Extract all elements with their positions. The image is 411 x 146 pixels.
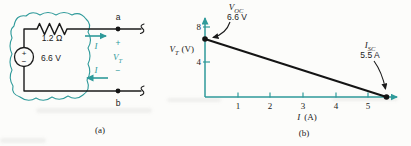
panel-a-caption: (a) (95, 125, 105, 135)
y-axis-label: VT(V) (169, 44, 194, 56)
vt-plus-sign: + (116, 38, 121, 48)
terminal-b-dot (116, 89, 121, 94)
panel-b-caption: (b) (299, 128, 310, 138)
figure-thevenin-equivalent: 1.2 Ω + − 6.6 V a b I I + VT − (a) (0, 0, 411, 146)
terminal-b-label: b (116, 98, 121, 108)
x-tick-label-3: 3 (301, 101, 306, 111)
voc-point (202, 36, 208, 42)
isc-arrow (374, 61, 386, 89)
y-tick-label-4: 4 (197, 57, 202, 67)
circuit-panel: 1.2 Ω + − 6.6 V a b I I + VT − (a) (0, 0, 160, 146)
source-minus-sign: − (22, 57, 27, 66)
terminal-a-label: a (116, 12, 121, 22)
isc-annotation-value: 5.5 A (360, 50, 380, 60)
isc-point (384, 94, 390, 100)
current-label-bottom: I (94, 65, 99, 75)
current-label-top: I (94, 41, 99, 51)
x-tick-label-5: 5 (366, 101, 371, 111)
voc-arrow (213, 22, 230, 38)
x-tick-label-1: 1 (236, 101, 241, 111)
graph-panel: 8 4 1 2 3 4 5 VOC 6.6 V ISC 5.5 A VT(V) (160, 0, 411, 146)
vt-label: VT (113, 52, 123, 64)
vt-minus-sign: − (116, 65, 121, 75)
load-line (205, 39, 387, 97)
y-tick-label-8: 8 (197, 22, 202, 32)
x-tick-label-4: 4 (334, 101, 339, 111)
voc-annotation-value: 6.6 V (227, 12, 247, 22)
x-tick-label-2: 2 (268, 101, 273, 111)
x-axis-label: I(A) (296, 112, 317, 122)
source-value-label: 6.6 V (41, 53, 61, 63)
resistor-value-label: 1.2 Ω (42, 33, 63, 43)
terminal-a-dot (116, 27, 121, 32)
